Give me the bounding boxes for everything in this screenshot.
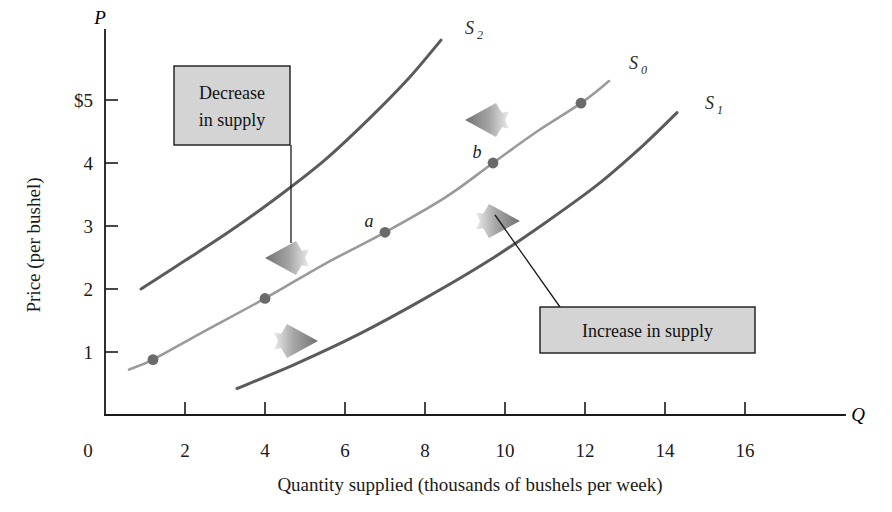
y-axis-tick-labels: 1234$5	[74, 90, 94, 363]
y-axis-ticks	[105, 100, 118, 352]
x-axis-ticks	[185, 402, 745, 415]
data-point	[260, 293, 271, 304]
x-tick-label: 16	[736, 440, 755, 461]
supply-shift-figure: 1234$5 246810121416 P Q 0 Price (per bus…	[0, 0, 892, 512]
curve-label-subscript: 0	[641, 63, 647, 77]
x-axis-symbol: Q	[851, 404, 865, 425]
data-point-a	[380, 227, 391, 238]
y-axis-symbol: P	[93, 7, 106, 28]
data-point-b	[488, 158, 499, 169]
supply-curve-labels: S2S0S1	[465, 18, 723, 118]
callout-leader-increase	[495, 215, 560, 307]
x-tick-label: 14	[656, 440, 676, 461]
x-tick-label: 8	[420, 440, 430, 461]
x-tick-label: 4	[260, 440, 270, 461]
curve-label-letter: S	[705, 93, 714, 113]
x-tick-label: 2	[180, 440, 190, 461]
shift-arrow-increase-upper	[476, 204, 520, 238]
callout-text-decrease: in supply	[199, 110, 266, 130]
callout-box-decrease	[174, 66, 290, 145]
y-tick-label: 2	[84, 279, 94, 300]
shift-arrow-increase-lower	[274, 324, 318, 358]
curve-label-subscript: 1	[717, 103, 723, 117]
shift-arrows	[265, 103, 520, 358]
y-axis-title: Price (per bushel)	[23, 177, 45, 312]
x-axis-origin-label: 0	[83, 440, 93, 461]
y-tick-label: 4	[84, 153, 94, 174]
curve-label-s0: S0	[629, 53, 647, 77]
curve-label-s2: S2	[465, 18, 483, 42]
shift-arrow-decrease-lower	[265, 241, 309, 275]
x-axis-title: Quantity supplied (thousands of bushels …	[277, 474, 662, 496]
callout-text-increase: Increase in supply	[582, 321, 713, 341]
chart-canvas: 1234$5 246810121416 P Q 0 Price (per bus…	[0, 0, 892, 512]
shift-arrow-decrease-upper	[465, 103, 509, 137]
x-tick-label: 10	[496, 440, 515, 461]
data-point	[576, 98, 587, 109]
data-point	[148, 354, 159, 365]
curve-label-letter: S	[465, 18, 474, 38]
x-tick-label: 6	[340, 440, 350, 461]
data-point-label-b: b	[473, 142, 482, 162]
y-tick-label: $5	[74, 90, 93, 111]
axes: 1234$5 246810121416 P Q 0 Price (per bus…	[23, 7, 865, 496]
x-axis-tick-labels: 246810121416	[180, 440, 754, 461]
x-tick-label: 12	[576, 440, 595, 461]
curve-label-s1: S1	[705, 93, 723, 117]
curve-label-subscript: 2	[477, 28, 483, 42]
callout-decrease: Decreasein supply	[174, 66, 291, 243]
callout-text-decrease: Decrease	[199, 83, 265, 103]
y-tick-label: 3	[84, 216, 94, 237]
y-tick-label: 1	[84, 342, 94, 363]
curve-label-letter: S	[629, 53, 638, 73]
callout-increase: Increase in supply	[495, 215, 755, 353]
data-point-label-a: a	[365, 211, 374, 231]
